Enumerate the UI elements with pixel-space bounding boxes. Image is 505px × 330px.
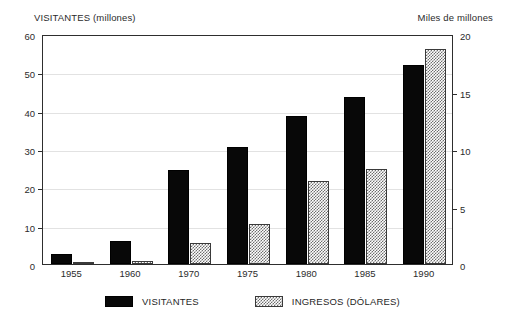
left-tick-label: 30	[24, 146, 35, 157]
chart-legend: VISITANTESINGRESOS (DÓLARES)	[0, 296, 505, 307]
legend-item: INGRESOS (DÓLARES)	[255, 296, 400, 307]
legend-label: VISITANTES	[142, 296, 199, 307]
right-axis-title: Miles de millones	[418, 12, 493, 23]
bar-group	[344, 36, 387, 264]
right-tick-label: 10	[460, 146, 471, 157]
bar-group	[110, 36, 153, 264]
x-axis-labels: 1955196019701975198019851990	[42, 268, 453, 284]
bar-visitantes	[168, 170, 189, 264]
right-tick-label: 5	[460, 203, 465, 214]
right-tick-label: 20	[460, 31, 471, 42]
right-tick-label: 15	[460, 88, 471, 99]
bar-visitantes	[344, 97, 365, 264]
x-axis-label: 1985	[354, 268, 375, 279]
bar-ingresos	[73, 262, 94, 264]
legend-label: INGRESOS (DÓLARES)	[292, 296, 400, 307]
right-tick-mark	[452, 209, 457, 210]
plot-area: 0102030405060 05101520	[42, 35, 453, 265]
bar-visitantes	[51, 254, 72, 264]
right-tick-mark	[452, 94, 457, 95]
bar-visitantes	[403, 65, 424, 264]
left-tick-label: 50	[24, 69, 35, 80]
left-tick-label: 60	[24, 31, 35, 42]
bar-group	[168, 36, 211, 264]
x-axis-label: 1960	[119, 268, 140, 279]
left-tick-label: 0	[30, 261, 35, 272]
bar-group	[286, 36, 329, 264]
bar-group	[403, 36, 446, 264]
bar-chart-figure: VISITANTES (millones) Miles de millones …	[0, 0, 505, 330]
left-tick-label: 40	[24, 107, 35, 118]
x-axis-label: 1955	[61, 268, 82, 279]
right-tick-label: 0	[460, 261, 465, 272]
right-tick-mark	[452, 151, 457, 152]
x-axis-label: 1970	[178, 268, 199, 279]
bar-ingresos	[190, 243, 211, 264]
bar-visitantes	[110, 241, 131, 264]
bar-ingresos	[132, 261, 153, 264]
bar-visitantes	[227, 147, 248, 264]
bar-group	[51, 36, 94, 264]
legend-item: VISITANTES	[105, 296, 199, 307]
bar-visitantes	[286, 116, 307, 264]
x-axis-label: 1975	[237, 268, 258, 279]
left-tick-label: 10	[24, 222, 35, 233]
left-axis-title: VISITANTES (millones)	[34, 12, 136, 23]
cross-hatch-swatch	[255, 296, 283, 307]
bar-ingresos	[249, 224, 270, 264]
bar-group	[227, 36, 270, 264]
x-axis-label: 1980	[296, 268, 317, 279]
solid-black-swatch	[105, 296, 133, 307]
bar-ingresos	[308, 181, 329, 264]
bar-ingresos	[425, 49, 446, 264]
bar-ingresos	[366, 169, 387, 264]
bars-layer	[43, 36, 452, 264]
x-axis-label: 1990	[413, 268, 434, 279]
left-tick-label: 20	[24, 184, 35, 195]
